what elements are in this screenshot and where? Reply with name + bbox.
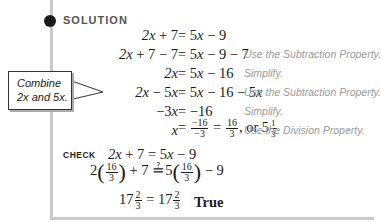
step-lhs: 2x − 5x xyxy=(135,84,178,101)
true-result: True xyxy=(194,194,224,211)
step-note: Use the Subtraction Property. xyxy=(244,86,381,98)
step-note: Use the Subtraction Property. xyxy=(244,48,381,60)
check-line-2: 2(163) + 7 ≟5(163) − 9 xyxy=(0,161,374,191)
callout-joint xyxy=(69,79,71,99)
check-line-3: 1723 = 1723 True xyxy=(0,190,374,216)
fraction: 23 xyxy=(173,190,180,211)
step-lhs: 2x + 7 − 7 xyxy=(119,46,178,63)
step-lhs: 2x + 7 xyxy=(142,27,178,44)
section-label: SOLUTION xyxy=(63,14,128,26)
step-note: Simplify. xyxy=(244,67,283,79)
fraction: 163 xyxy=(226,118,238,139)
check-result: 1723 = 1723 xyxy=(119,190,181,211)
callout-text: Combine 2x and 5x. xyxy=(17,76,68,104)
check-substitution: 2(163) + 7 ≟5(163) − 9 xyxy=(90,161,224,183)
bottom-rule xyxy=(50,217,374,220)
step-1: 2x + 7 = 5x − 9 xyxy=(0,27,374,45)
callout-pointer-icon xyxy=(69,78,105,102)
fraction: 23 xyxy=(135,190,142,211)
step-rhs: = 5x − 9 − 7 xyxy=(178,46,249,63)
fraction: −16−3 xyxy=(191,118,209,139)
step-rhs: = 5x − 16 xyxy=(178,65,233,82)
fraction: 163 xyxy=(106,162,118,183)
step-note: Use the Division Property. xyxy=(244,124,365,136)
step-2: 2x + 7 − 7 = 5x − 9 − 7 Use the Subtract… xyxy=(0,46,374,64)
step-note: Simplify. xyxy=(244,105,283,117)
step-lhs: 2x xyxy=(164,65,178,82)
step-rhs: = 5x − 9 xyxy=(178,27,226,44)
fraction: 163 xyxy=(181,162,193,183)
step-6: x = −16−3 = 163, or 513 Use the Division… xyxy=(0,118,374,144)
callout-box: Combine 2x and 5x. xyxy=(8,71,72,110)
bullet-icon xyxy=(44,15,56,27)
